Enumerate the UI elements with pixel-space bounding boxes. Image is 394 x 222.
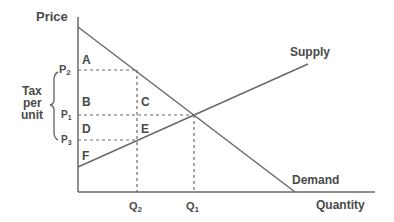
supply-label: Supply xyxy=(290,45,330,59)
area-a-label: A xyxy=(82,53,91,67)
area-f-label: F xyxy=(82,149,89,163)
demand-curve xyxy=(78,27,295,192)
area-d-label: D xyxy=(82,122,91,136)
area-b-label: B xyxy=(82,95,91,109)
p1-label: P1 xyxy=(61,109,72,121)
x-axis-label: Quantity xyxy=(316,198,365,212)
y-axis-label: Price xyxy=(36,9,68,24)
p3-label: P3 xyxy=(61,134,72,146)
q1-label: Q1 xyxy=(186,200,200,214)
p2-label: P2 xyxy=(59,63,71,77)
demand-label: Demand xyxy=(292,173,339,187)
area-e-label: E xyxy=(141,122,149,136)
tax-label-line3: unit xyxy=(21,108,43,122)
tax-bracket xyxy=(50,72,58,140)
q2-label: Q2 xyxy=(129,200,143,214)
tax-incidence-diagram: Price Quantity Supply Demand Tax per uni… xyxy=(0,0,394,222)
area-c-label: C xyxy=(141,95,150,109)
